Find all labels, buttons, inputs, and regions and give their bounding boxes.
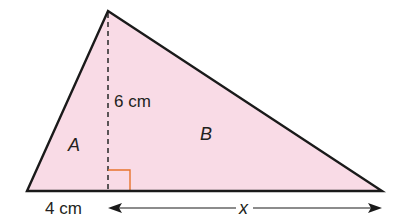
- diagram-svg: [0, 0, 408, 221]
- region-a-label: A: [68, 136, 80, 154]
- triangle-diagram: 6 cm A B 4 cm x: [0, 0, 408, 221]
- height-label: 6 cm: [114, 93, 151, 110]
- triangle-shape: [27, 11, 382, 191]
- base-x-label: x: [239, 199, 248, 217]
- region-b-label: B: [200, 125, 212, 143]
- base-left-segment-label: 4 cm: [45, 200, 82, 217]
